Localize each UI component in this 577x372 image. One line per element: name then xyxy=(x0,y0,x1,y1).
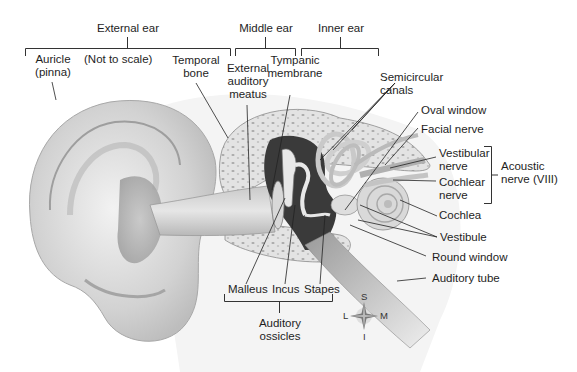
label-facial-nerve: Facial nerve xyxy=(421,123,484,136)
label-auricle: Auricle (pinna) xyxy=(30,53,76,79)
label-round-window: Round window xyxy=(432,251,507,264)
label-stapes: Stapes xyxy=(304,283,340,296)
label-vestibular-nerve: Vestibular nerve xyxy=(439,147,490,173)
label-acoustic-nerve: Acoustic nerve (VIII) xyxy=(501,160,558,186)
region-label-external-ear: External ear xyxy=(87,22,169,35)
label-auditory-ossicles: Auditory ossicles xyxy=(252,317,308,343)
compass-lateral: L xyxy=(343,310,348,321)
label-auditory-tube: Auditory tube xyxy=(432,272,500,285)
compass-medial: M xyxy=(380,310,388,321)
label-tympanic-membrane: Tympanic membrane xyxy=(266,54,324,80)
label-oval-window: Oval window xyxy=(421,104,486,117)
ear-anatomy-diagram: External ear Middle ear Inner ear (Not t… xyxy=(0,0,577,372)
label-semicircular-canals: Semicircular canals xyxy=(380,71,443,97)
label-cochlea: Cochlea xyxy=(439,209,481,222)
label-vestibule: Vestibule xyxy=(440,231,487,244)
label-temporal-bone: Temporal bone xyxy=(168,54,224,80)
region-label-middle-ear: Middle ear xyxy=(230,22,302,35)
not-to-scale-note: (Not to scale) xyxy=(84,53,152,66)
compass-superior: S xyxy=(361,291,367,302)
label-malleus: Malleus xyxy=(228,283,268,296)
label-incus: Incus xyxy=(272,283,300,296)
compass-inferior: I xyxy=(363,331,366,342)
region-label-inner-ear: Inner ear xyxy=(310,22,372,35)
label-cochlear-nerve: Cochlear nerve xyxy=(439,176,485,202)
